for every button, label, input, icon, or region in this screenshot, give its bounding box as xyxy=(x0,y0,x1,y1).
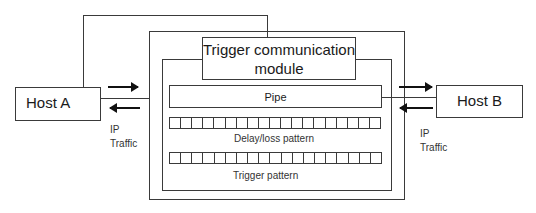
pipe-box: Pipe xyxy=(169,85,382,108)
delay-loss-pattern-cells xyxy=(169,117,381,129)
ip-traffic-left-line2: Traffic xyxy=(110,138,137,149)
arrow-left-icon xyxy=(400,107,433,109)
control-connector-vertical-left xyxy=(83,15,84,87)
ip-traffic-left-line1: IP xyxy=(110,124,119,135)
host-a-label: Host A xyxy=(26,94,70,111)
host-b-label: Host B xyxy=(457,92,502,109)
arrow-right-icon xyxy=(108,86,138,88)
host-a-box: Host A xyxy=(15,87,101,121)
module-label-line1: Trigger communication xyxy=(203,40,355,59)
host-a-link xyxy=(101,98,149,99)
ip-traffic-right-line2: Traffic xyxy=(420,142,447,153)
arrow-left-icon xyxy=(110,107,140,109)
pipe-to-host-b-link xyxy=(382,97,436,98)
ip-traffic-right-line1: IP xyxy=(420,128,429,139)
delay-loss-pattern-label: Delay/loss pattern xyxy=(234,133,314,144)
arrow-right-icon xyxy=(399,86,432,88)
trigger-communication-module: Trigger communication module xyxy=(202,37,356,80)
control-connector-horizontal xyxy=(83,15,268,16)
pipe-label: Pipe xyxy=(264,91,286,103)
module-label-line2: module xyxy=(254,59,303,78)
trigger-pattern-label: Trigger pattern xyxy=(233,170,298,181)
host-b-box: Host B xyxy=(436,85,523,118)
trigger-pattern-cells xyxy=(169,152,382,164)
